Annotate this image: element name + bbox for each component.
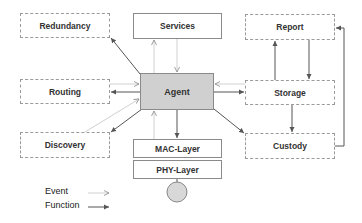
radio-node-circle xyxy=(167,182,187,202)
custody-label: Custody xyxy=(273,141,307,151)
mac-layer-label: MAC-Layer xyxy=(155,144,200,154)
phy-layer-box: PHY-Layer xyxy=(133,160,222,179)
edge-agent-discovery xyxy=(111,109,142,132)
routing-box: Routing xyxy=(20,79,110,104)
redundancy-label: Redundancy xyxy=(39,21,90,31)
storage-label: Storage xyxy=(274,88,306,98)
services-label: Services xyxy=(160,21,195,31)
custody-box: Custody xyxy=(245,133,335,159)
services-box: Services xyxy=(133,13,222,39)
report-box: Report xyxy=(245,14,335,40)
agent-label: Agent xyxy=(164,87,190,97)
legend-event-label: Event xyxy=(45,186,68,196)
edge-agent-redundancy xyxy=(111,38,140,74)
legend-function-label: Function xyxy=(45,200,80,210)
discovery-box: Discovery xyxy=(20,132,110,158)
mac-layer-box: MAC-Layer xyxy=(133,139,222,158)
edge-custody-report xyxy=(335,28,344,146)
storage-box: Storage xyxy=(245,80,335,105)
phy-layer-label: PHY-Layer xyxy=(156,165,199,175)
report-label: Report xyxy=(276,22,303,32)
routing-label: Routing xyxy=(49,87,81,97)
redundancy-box: Redundancy xyxy=(20,13,110,38)
discovery-label: Discovery xyxy=(45,140,86,150)
edge-agent-custody xyxy=(214,109,244,133)
agent-box: Agent xyxy=(140,73,214,110)
